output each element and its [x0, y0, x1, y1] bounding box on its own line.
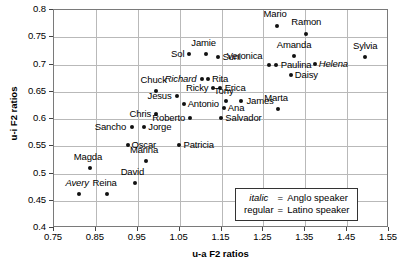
x-axis-tick-label: 1.15: [201, 231, 241, 242]
data-point: [204, 52, 208, 56]
y-axis-tick: [49, 91, 53, 92]
data-point: [77, 192, 81, 196]
data-point: [133, 181, 137, 185]
y-axis-tick: [49, 200, 53, 201]
data-point-label: Chuck: [141, 75, 167, 85]
data-point-label: Chris: [130, 109, 151, 119]
data-point: [144, 159, 148, 163]
data-point: [175, 94, 179, 98]
data-point: [304, 32, 308, 36]
data-point-label: Veronica: [227, 51, 263, 61]
gridline-horizontal: [54, 174, 387, 175]
data-point: [274, 63, 278, 67]
x-axis-tick-label: 1.55: [368, 231, 404, 242]
legend-row: regular = Latino speaker: [242, 204, 351, 216]
data-point: [130, 125, 134, 129]
y-axis-tick: [49, 64, 53, 65]
data-point-label: Sol: [171, 49, 184, 59]
data-point-label: Amanda: [277, 40, 311, 50]
y-axis-tick-label: 0.45: [0, 194, 46, 205]
data-point: [126, 143, 130, 147]
data-point-label: Marta: [264, 93, 288, 103]
y-axis-tick-label: 0.55: [0, 139, 46, 150]
data-point-label: Reina: [93, 178, 117, 188]
y-axis-tick: [49, 173, 53, 174]
y-axis-tick-label: 0.5: [0, 167, 46, 178]
data-point: [200, 77, 204, 81]
legend-equals: =: [276, 192, 286, 204]
y-axis-tick-label: 0.8: [0, 3, 46, 14]
gridline-vertical: [96, 10, 97, 226]
legend-equals: =: [276, 204, 286, 216]
y-axis-tick: [49, 227, 53, 228]
data-point-label: Magda: [74, 152, 102, 162]
data-point-label: Patricia: [183, 140, 213, 150]
data-point: [313, 62, 317, 66]
x-axis-tick-label: 1.35: [284, 231, 324, 242]
data-point: [187, 52, 191, 56]
data-point-label: Sylvia: [353, 41, 377, 51]
legend-value-anglo: Anglo speaker: [285, 192, 351, 204]
data-point-label: Ramon: [291, 17, 321, 27]
data-point-label: Avery: [65, 178, 88, 188]
data-point-label: Mario: [264, 9, 287, 19]
y-axis-tick: [49, 36, 53, 37]
y-axis-tick-label: 0.75: [0, 30, 46, 41]
y-axis-tick: [49, 145, 53, 146]
data-point-label: Sancho: [95, 122, 126, 132]
data-point-label: Tony: [214, 86, 233, 96]
data-point: [88, 166, 92, 170]
legend-value-latino: Latino speaker: [285, 204, 351, 216]
y-axis-tick-label: 0.7: [0, 58, 46, 69]
data-point: [267, 63, 271, 67]
legend: italic = Anglo speaker regular = Latino …: [235, 188, 358, 221]
x-axis-title: u-a F2 ratios: [53, 248, 388, 259]
gridline-horizontal: [54, 37, 387, 38]
scatter-chart: u-i F2 ratios u-a F2 ratios italic = Ang…: [0, 0, 404, 274]
x-axis-tick-label: 0.95: [117, 231, 157, 242]
data-point: [105, 192, 109, 196]
data-point-label: Antonio: [188, 99, 219, 109]
data-point-label: Jamie: [191, 38, 216, 48]
y-axis-tick-label: 0.4: [0, 221, 46, 232]
data-point-label: Helena: [319, 59, 348, 69]
data-point-label: Salvador: [225, 113, 261, 123]
gridline-horizontal: [54, 146, 387, 147]
data-point: [206, 77, 210, 81]
data-point: [363, 55, 367, 59]
y-axis-tick: [49, 118, 53, 119]
data-point-label: Marina: [130, 145, 158, 155]
x-axis-tick-label: 0.75: [33, 231, 73, 242]
data-point: [224, 99, 228, 103]
data-point-label: David: [121, 167, 145, 177]
x-axis-tick-label: 1.05: [159, 231, 199, 242]
y-axis-tick-label: 0.6: [0, 112, 46, 123]
y-axis-tick: [49, 9, 53, 10]
data-point-label: Daisy: [295, 70, 318, 80]
data-point-label: Ricky: [186, 83, 208, 93]
legend-key-regular: regular: [242, 204, 276, 216]
legend-row: italic = Anglo speaker: [242, 192, 351, 204]
x-axis-tick-label: 1.25: [242, 231, 282, 242]
x-axis-tick-label: 1.45: [326, 231, 366, 242]
y-axis-tick-label: 0.65: [0, 85, 46, 96]
data-point-label: Jorge: [148, 122, 171, 132]
data-point-label: Jesus: [148, 91, 172, 101]
x-axis-tick-label: 0.85: [75, 231, 115, 242]
legend-key-italic: italic: [242, 192, 276, 204]
